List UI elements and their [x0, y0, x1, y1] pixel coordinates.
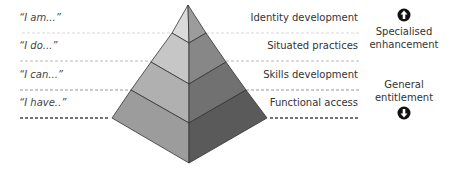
pyramid-diagram: “I am...” “I do...” “I can...” “I have..… — [0, 0, 450, 170]
arrow-up-circle-icon — [398, 9, 411, 22]
right-label-situated-practices: Situated practices — [267, 40, 358, 51]
left-label-i-can: “I can...” — [19, 69, 63, 80]
right-label-functional-access: Functional access — [270, 97, 358, 108]
arrow-down-circle-icon — [398, 107, 411, 120]
right-label-skills-development: Skills development — [263, 69, 358, 80]
specialised-enhancement-label: Specialised enhancement — [359, 25, 449, 51]
left-label-i-have: “I have..” — [19, 97, 66, 108]
general-entitlement-label: General entitlement — [359, 78, 449, 104]
right-label-identity-development: Identity development — [251, 12, 358, 23]
left-label-i-am: “I am...” — [19, 12, 61, 23]
left-label-i-do: “I do...” — [19, 40, 58, 51]
